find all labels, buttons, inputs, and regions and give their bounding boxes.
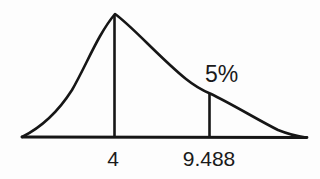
chi-square-distribution-figure: 4 9.488 5% xyxy=(0,0,320,179)
chi-square-chart-svg: 4 9.488 5% xyxy=(0,0,320,179)
x-axis-tick-label-mean: 4 xyxy=(107,147,119,170)
x-axis-line xyxy=(22,137,307,138)
x-axis-tick-label-critical-value: 9.488 xyxy=(183,147,236,170)
distribution-curve xyxy=(22,14,306,138)
tail-area-percent-label: 5% xyxy=(205,61,238,87)
